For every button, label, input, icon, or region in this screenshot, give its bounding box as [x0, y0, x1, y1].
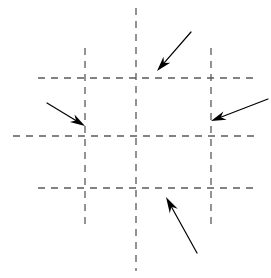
- dashed-grid-diagram: [0, 0, 271, 278]
- figure-root: [0, 0, 271, 278]
